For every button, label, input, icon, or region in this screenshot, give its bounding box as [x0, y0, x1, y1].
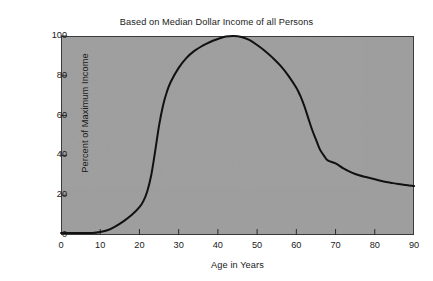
x-tick-label-90: 90 [394, 240, 433, 250]
chart-figure: Based on Median Dollar Income of all Per… [0, 0, 433, 281]
y-tick-label-60: 60 [27, 110, 67, 120]
plot-wrapper: Percent of Maximum Income Age in Years 0… [61, 36, 414, 235]
x-tick-label-10: 10 [80, 240, 120, 250]
y-axis-title: Percent of Maximum Income [80, 13, 90, 213]
y-tick-label-40: 40 [27, 149, 67, 159]
x-tick-label-20: 20 [119, 240, 159, 250]
y-tick-label-80: 80 [27, 70, 67, 80]
x-tick-label-40: 40 [198, 240, 238, 250]
y-tick-label-100: 100 [27, 30, 67, 40]
x-tick-label-70: 70 [316, 240, 356, 250]
x-tick-label-50: 50 [237, 240, 277, 250]
data-curve-layer [61, 36, 414, 235]
x-tick-label-0: 0 [41, 240, 81, 250]
income-curve [61, 36, 414, 233]
x-tick-label-30: 30 [159, 240, 199, 250]
x-tick-label-80: 80 [355, 240, 395, 250]
chart-title-line-1: Based on Median Dollar Income of all Per… [0, 16, 433, 28]
x-axis-tick-marks [100, 229, 375, 235]
x-tick-label-60: 60 [276, 240, 316, 250]
x-axis-title: Age in Years [61, 260, 414, 270]
y-tick-label-0: 0 [27, 229, 67, 239]
y-tick-label-20: 20 [27, 189, 67, 199]
